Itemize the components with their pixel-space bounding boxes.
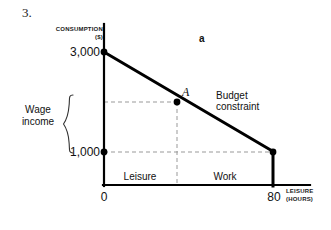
plot-area [0, 0, 331, 230]
budget-constraint-figure: 3. a CONSUMPTION($) LEISURE(HOURS) 3,000… [0, 0, 331, 230]
budget-constraint-line [104, 52, 274, 152]
marker-point-a [174, 99, 181, 106]
marker-consumption-3000 [101, 49, 108, 56]
marker-consumption-1000 [101, 149, 108, 156]
wage-income-brace [64, 95, 74, 153]
marker-endowment-point [270, 149, 277, 156]
